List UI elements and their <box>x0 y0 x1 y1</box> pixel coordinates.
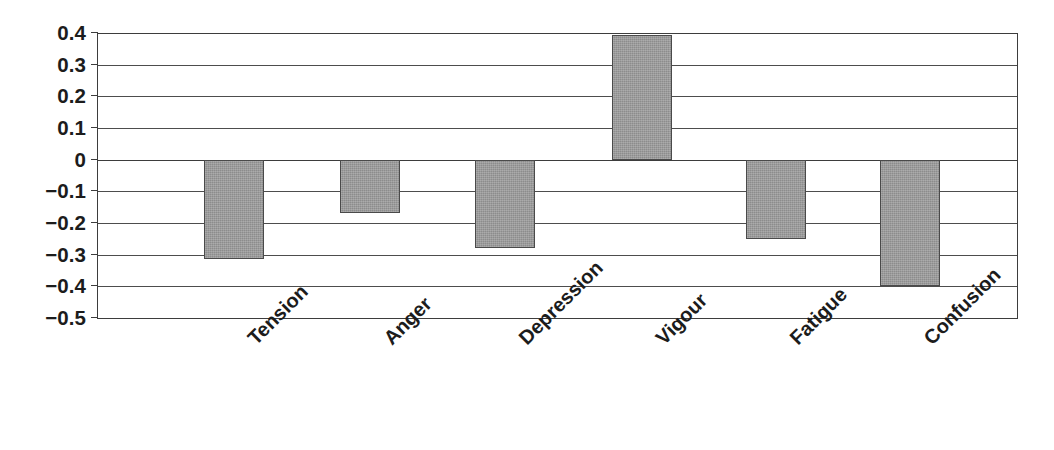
plot-area <box>97 33 1018 318</box>
bar <box>612 35 672 160</box>
gridline <box>97 96 1018 97</box>
bar <box>880 160 940 287</box>
bar <box>746 160 806 239</box>
bar <box>204 160 264 260</box>
y-axis-tick-label: 0.2 <box>57 86 86 107</box>
gridline <box>97 128 1018 129</box>
y-axis-tick-labels: 0.40.30.20.10−0.1−0.2−0.3−0.4−0.5 <box>0 0 86 450</box>
gridline <box>97 33 1018 34</box>
gridline <box>97 286 1018 287</box>
bar-chart-figure: 0.40.30.20.10−0.1−0.2−0.3−0.4−0.5 Tensio… <box>0 0 1054 450</box>
y-axis-tick-label: −0.3 <box>45 244 86 265</box>
y-axis-tick-label: −0.4 <box>45 276 86 297</box>
y-axis-line <box>97 33 98 318</box>
y-axis-tick-label: −0.1 <box>45 181 86 202</box>
gridline <box>97 65 1018 66</box>
bar <box>340 160 400 214</box>
y-axis-tick-label: −0.2 <box>45 213 86 234</box>
y-axis-tick-label: −0.5 <box>45 308 86 329</box>
plot-right-border <box>1017 33 1018 318</box>
y-axis-tick-label: 0.4 <box>57 23 86 44</box>
y-axis-tick-label: 0.3 <box>57 54 86 75</box>
bar <box>475 160 535 249</box>
y-axis-tick-label: 0 <box>74 149 86 170</box>
y-axis-tick-label: 0.1 <box>57 118 86 139</box>
